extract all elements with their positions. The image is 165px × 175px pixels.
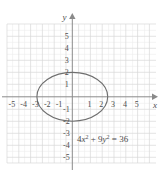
coordinate-plot: y x -5 -4 -3 -2 -1 1 2 3 4 5 5 4 3 2 1 -… xyxy=(0,0,165,175)
y-axis-label: y xyxy=(62,12,67,22)
y-tick-label: -3 xyxy=(63,129,70,138)
x-tick-label: -1 xyxy=(56,100,63,109)
graph-figure: y x -5 -4 -3 -2 -1 1 2 3 4 5 5 4 3 2 1 -… xyxy=(0,0,165,175)
x-axis-label: x xyxy=(152,100,157,110)
equation-annotation: 4x2 + 9y2 = 36 xyxy=(77,134,129,144)
y-tick-label: 3 xyxy=(65,56,69,65)
x-tick-label: -5 xyxy=(9,100,16,109)
y-tick-label: -5 xyxy=(63,153,70,162)
y-tick-label: -4 xyxy=(63,141,70,150)
y-tick-label: 5 xyxy=(65,32,69,41)
x-tick-label: 3 xyxy=(111,100,115,109)
x-tick-label: 2 xyxy=(99,100,103,109)
x-tick-labels: -5 -4 -3 -2 -1 1 2 3 4 5 xyxy=(9,100,139,109)
y-tick-label: -1 xyxy=(63,105,70,114)
x-tick-label: 5 xyxy=(135,100,139,109)
x-tick-label: 1 xyxy=(88,100,92,109)
x-tick-label: -2 xyxy=(44,100,51,109)
y-tick-label: 2 xyxy=(65,68,69,77)
y-tick-label: -2 xyxy=(63,117,70,126)
y-tick-label: 1 xyxy=(65,80,69,89)
equation-rhs: 36 xyxy=(119,134,129,144)
x-tick-label: 4 xyxy=(123,100,127,109)
y-tick-label: 4 xyxy=(65,44,69,53)
x-tick-label: -4 xyxy=(20,100,27,109)
x-tick-label: -3 xyxy=(32,100,39,109)
